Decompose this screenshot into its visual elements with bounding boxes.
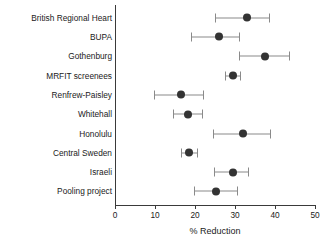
data-point-row (0, 31, 329, 42)
error-bar-lower-cap (191, 32, 192, 41)
error-bar-lower-cap (225, 71, 226, 80)
data-point-marker (261, 52, 269, 60)
error-bar-lower-cap (215, 13, 216, 22)
error-bar-lower-cap (239, 52, 240, 61)
data-point-marker (243, 14, 251, 22)
data-point-row (0, 147, 329, 158)
error-bar-upper-cap (239, 32, 240, 41)
error-bar-lower-cap (154, 90, 155, 99)
data-point-row (0, 186, 329, 197)
x-tick-label: 10 (150, 210, 159, 220)
x-tick (195, 205, 196, 209)
error-bar-upper-cap (237, 187, 238, 196)
data-point-marker (215, 33, 223, 41)
error-bar-line (215, 17, 269, 18)
x-tick-label: 40 (270, 210, 279, 220)
data-point-marker (239, 130, 247, 138)
x-tick (115, 205, 116, 209)
error-bar-lower-cap (181, 148, 182, 157)
error-bar-lower-cap (194, 187, 195, 196)
error-bar-upper-cap (289, 52, 290, 61)
data-point-row (0, 70, 329, 81)
data-point-row (0, 89, 329, 100)
error-bar-lower-cap (173, 110, 174, 119)
data-point-row (0, 51, 329, 62)
error-bar-upper-cap (203, 90, 204, 99)
error-bar-upper-cap (270, 129, 271, 138)
x-tick-label: 50 (310, 210, 319, 220)
x-axis-label: % Reduction (115, 226, 315, 236)
data-point-row (0, 128, 329, 139)
forest-plot-figure: British Regional HeartBUPAGothenburgMRFI… (0, 0, 329, 248)
data-point-row (0, 12, 329, 23)
data-point-marker (229, 168, 237, 176)
error-bar-upper-cap (197, 148, 198, 157)
data-point-marker (177, 91, 185, 99)
error-bar-upper-cap (248, 168, 249, 177)
x-tick-label: 0 (113, 210, 118, 220)
x-tick-label: 20 (190, 210, 199, 220)
x-axis-line (115, 205, 315, 206)
x-tick (275, 205, 276, 209)
data-point-marker (212, 187, 220, 195)
error-bar-upper-cap (240, 71, 241, 80)
error-bar-upper-cap (269, 13, 270, 22)
data-point-marker (184, 110, 192, 118)
data-point-marker (185, 149, 193, 157)
error-bar-lower-cap (213, 129, 214, 138)
data-point-marker (229, 72, 237, 80)
x-tick (155, 205, 156, 209)
x-tick (315, 205, 316, 209)
error-bar-lower-cap (214, 168, 215, 177)
x-tick-label: 30 (230, 210, 239, 220)
error-bar-upper-cap (202, 110, 203, 119)
data-point-row (0, 167, 329, 178)
data-point-row (0, 109, 329, 120)
x-tick (235, 205, 236, 209)
